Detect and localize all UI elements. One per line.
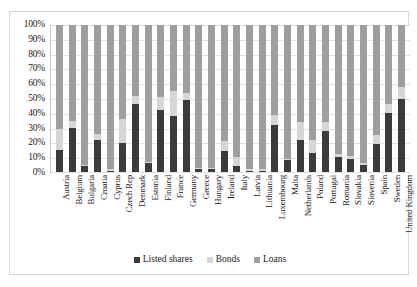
bar-segment [398, 99, 405, 173]
bar-column[interactable] [218, 25, 231, 172]
legend-item[interactable]: Listed shares [134, 255, 193, 265]
bar-stack [94, 25, 101, 172]
bar-column[interactable] [91, 25, 104, 172]
bar-column[interactable] [306, 25, 319, 172]
bar-segment [145, 163, 152, 172]
bar-column[interactable] [154, 25, 167, 172]
bar-series-group [51, 25, 410, 172]
bar-segment [398, 25, 405, 87]
bar-segment [246, 25, 253, 169]
bar-stack [107, 25, 114, 172]
bar-stack [119, 25, 126, 172]
x-axis-label-slot: Poland [306, 173, 319, 251]
bar-segment [107, 171, 114, 172]
bar-stack [132, 25, 139, 172]
chart-container: 100%90%80%70%60%50%40%30%20%10%0% Austri… [0, 0, 417, 287]
bar-column[interactable] [104, 25, 117, 172]
bar-segment [170, 91, 177, 116]
bar-segment [119, 119, 126, 143]
x-axis-label-slot: Bulgaria [77, 173, 90, 251]
legend-label: Bonds [216, 255, 240, 265]
bar-segment [309, 153, 316, 172]
bar-segment [259, 171, 266, 172]
bar-segment [322, 131, 329, 172]
bar-column[interactable] [53, 25, 66, 172]
x-axis-labels: AustriaBelgiumBulgariaCroatiaCyprusCzech… [50, 173, 410, 251]
bar-column[interactable] [205, 25, 218, 172]
chart-legend: Listed sharesBondsLoans [10, 255, 410, 265]
bar-segment [335, 25, 342, 154]
bar-stack [347, 25, 354, 172]
bar-stack [170, 25, 177, 172]
bar-column[interactable] [395, 25, 408, 172]
bar-column[interactable] [78, 25, 91, 172]
bar-segment [119, 143, 126, 172]
bar-column[interactable] [167, 25, 180, 172]
x-axis-label-slot: Greece [192, 173, 205, 251]
bar-stack [398, 25, 405, 172]
bar-segment [373, 25, 380, 135]
bar-segment [69, 25, 76, 121]
bar-column[interactable] [129, 25, 142, 172]
bar-segment [119, 25, 126, 119]
chart-frame: 100%90%80%70%60%50%40%30%20%10%0% Austri… [9, 11, 409, 275]
bar-segment [157, 110, 164, 172]
legend-item[interactable]: Bonds [207, 255, 240, 265]
y-axis-tick-label: 10% [28, 153, 45, 163]
bar-stack [373, 25, 380, 172]
bar-segment [132, 104, 139, 172]
x-axis-label-slot: Luxembourg [268, 173, 281, 251]
bar-stack [309, 25, 316, 172]
bar-column[interactable] [192, 25, 205, 172]
x-axis-label-slot: Romania [332, 173, 345, 251]
bar-segment [297, 140, 304, 172]
bar-column[interactable] [180, 25, 193, 172]
bar-segment [398, 87, 405, 99]
bar-segment [347, 159, 354, 172]
y-axis-labels: 100%90%80%70%60%50%40%30%20%10%0% [10, 25, 48, 173]
bar-segment [385, 104, 392, 113]
bar-column[interactable] [268, 25, 281, 172]
bar-column[interactable] [256, 25, 269, 172]
bar-segment [360, 165, 367, 172]
bar-stack [183, 25, 190, 172]
bar-segment [157, 97, 164, 110]
x-axis-label-slot: Ireland [217, 173, 230, 251]
bar-column[interactable] [230, 25, 243, 172]
bar-column[interactable] [344, 25, 357, 172]
bar-column[interactable] [332, 25, 345, 172]
bar-stack [221, 25, 228, 172]
x-axis-label-slot: Netherlands [294, 173, 307, 251]
x-axis-label-slot: Germany [179, 173, 192, 251]
bar-segment [183, 25, 190, 93]
bar-column[interactable] [281, 25, 294, 172]
bar-segment [69, 121, 76, 128]
bar-segment [271, 125, 278, 172]
bar-column[interactable] [116, 25, 129, 172]
bar-segment [170, 116, 177, 172]
x-axis-label-slot: Slovenia [357, 173, 370, 251]
legend-item[interactable]: Loans [254, 255, 286, 265]
bar-segment [132, 96, 139, 105]
bar-column[interactable] [243, 25, 256, 172]
bar-segment [309, 140, 316, 153]
bar-segment [145, 25, 152, 162]
bar-column[interactable] [66, 25, 79, 172]
bar-column[interactable] [319, 25, 332, 172]
bar-segment [56, 129, 63, 150]
bar-segment [69, 128, 76, 172]
bar-column[interactable] [370, 25, 383, 172]
bar-column[interactable] [382, 25, 395, 172]
bar-column[interactable] [294, 25, 307, 172]
y-axis-tick-label: 0% [33, 168, 45, 178]
bar-column[interactable] [357, 25, 370, 172]
bar-stack [195, 25, 202, 172]
bar-column[interactable] [142, 25, 155, 172]
bar-segment [233, 157, 240, 166]
bar-segment [297, 122, 304, 140]
legend-swatch-icon [254, 257, 260, 263]
x-axis-label-slot: Austria [52, 173, 65, 251]
x-axis-label-slot: Estonia [141, 173, 154, 251]
bar-segment [347, 25, 354, 156]
x-axis-label-slot: Hungary [205, 173, 218, 251]
